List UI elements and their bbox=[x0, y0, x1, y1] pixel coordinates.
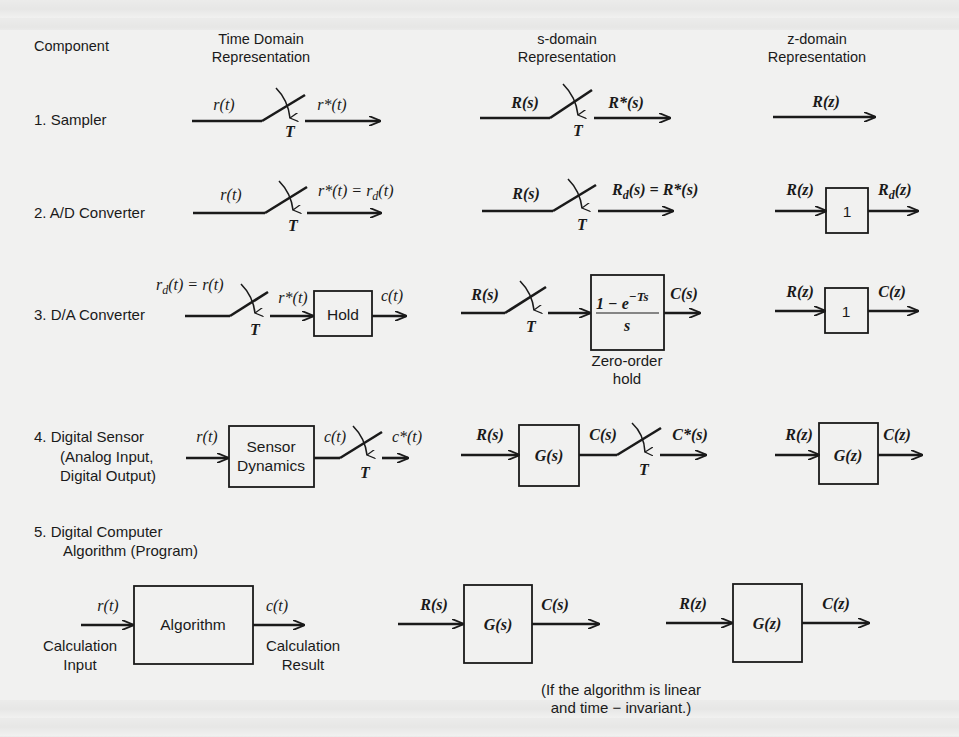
s-ad-switch: R(s) T Rd(s) = R*(s) bbox=[482, 179, 698, 233]
row-label: 4. Digital Sensor bbox=[34, 428, 144, 445]
row-label: 2. A/D Converter bbox=[34, 204, 145, 221]
header-time-domain-line2: Representation bbox=[212, 49, 310, 65]
signal-label: rd(t) = r(t) bbox=[156, 276, 223, 297]
time-ad-switch: r(t) T r*(t) = rd(t) bbox=[193, 181, 393, 234]
header-z-domain-line1: z-domain bbox=[787, 31, 847, 47]
block-label: Hold bbox=[327, 306, 359, 323]
header-s-domain-line1: s-domain bbox=[537, 31, 597, 47]
block-label: Sensor bbox=[246, 438, 295, 455]
row-label: 3. D/A Converter bbox=[34, 306, 145, 323]
signal-label: r*(t) = rd(t) bbox=[318, 182, 393, 203]
sample-period-label: T bbox=[577, 216, 588, 233]
signal-label: R*(s) bbox=[607, 94, 644, 112]
signal-label: R(s) bbox=[510, 94, 539, 112]
row-digital-computer-algorithm: 5. Digital Computer Algorithm (Program) … bbox=[34, 523, 869, 673]
signal-label: C(s) bbox=[670, 285, 698, 303]
zoh-numerator: 1 − e−Ts bbox=[596, 289, 648, 312]
signal-label: C(z) bbox=[822, 595, 850, 613]
signal-label: c(t) bbox=[324, 428, 346, 446]
sample-period-label: T bbox=[526, 318, 537, 335]
s-sensor-dynamics: R(s) G(s) C(s) T C*(s) bbox=[461, 423, 708, 486]
calculation-input-caption: Calculation bbox=[43, 637, 117, 654]
footnote-line: and time − invariant.) bbox=[551, 699, 692, 716]
signal-label: r(t) bbox=[196, 428, 217, 446]
signal-label: C*(s) bbox=[672, 426, 708, 444]
column-headers: Component Time Domain Representation s-d… bbox=[34, 31, 866, 65]
signal-label: C(s) bbox=[589, 426, 617, 444]
footnote: (If the algorithm is linear and time − i… bbox=[541, 681, 701, 716]
z-ad-unity-block: R(z) 1 Rd(z) bbox=[775, 181, 918, 233]
row-ad-converter: 2. A/D Converter r(t) T r*(t) = rd(t) R(… bbox=[34, 179, 918, 234]
s-algorithm: R(s) G(s) C(s) bbox=[398, 585, 599, 663]
row-label: Algorithm (Program) bbox=[63, 542, 198, 559]
block-label: G(z) bbox=[753, 615, 781, 633]
signal-label: r*(t) bbox=[317, 96, 346, 114]
block-label: Algorithm bbox=[160, 616, 225, 633]
row-digital-sensor: 4. Digital Sensor (Analog Input, Digital… bbox=[34, 423, 922, 487]
signal-label: Rd(s) = R*(s) bbox=[611, 181, 698, 202]
signal-label: r*(t) bbox=[278, 289, 307, 307]
signal-label: r(t) bbox=[97, 597, 118, 615]
calculation-result-caption: Result bbox=[282, 656, 325, 673]
sample-period-label: T bbox=[360, 464, 371, 481]
row-label: 1. Sampler bbox=[34, 111, 107, 128]
header-z-domain-line2: Representation bbox=[768, 49, 866, 65]
row-sampler: 1. Sampler r(t) T r*(t) R(s) T R*(s) R(z… bbox=[34, 84, 875, 140]
z-sampler-signal: R(z) bbox=[773, 93, 875, 117]
signal-label: C(z) bbox=[883, 426, 911, 444]
signal-label: r(t) bbox=[220, 186, 241, 204]
zoh-caption: Zero-order bbox=[592, 352, 663, 369]
signal-label: c(t) bbox=[381, 287, 403, 305]
header-time-domain-line1: Time Domain bbox=[218, 31, 304, 47]
signal-label: R(s) bbox=[475, 426, 504, 444]
row-label: Digital Output) bbox=[60, 467, 156, 484]
sample-period-label: T bbox=[288, 217, 299, 234]
header-component: Component bbox=[34, 38, 109, 54]
s-da-zero-order-hold: R(s) T 1 − e−Ts s C(s) Zero-order hold bbox=[461, 275, 700, 387]
signal-label: R(z) bbox=[678, 595, 707, 613]
calculation-result-caption: Calculation bbox=[266, 637, 340, 654]
signal-label: R(z) bbox=[785, 181, 814, 199]
z-algorithm: R(z) G(z) C(z) bbox=[666, 584, 869, 662]
component-representation-diagram: Component Time Domain Representation s-d… bbox=[0, 0, 959, 737]
header-s-domain-line2: Representation bbox=[518, 49, 616, 65]
footnote-line: (If the algorithm is linear bbox=[541, 681, 701, 698]
signal-label: R(s) bbox=[470, 286, 499, 304]
time-sensor-dynamics: r(t) Sensor Dynamics c(t) T c*(t) bbox=[186, 426, 422, 487]
row-da-converter: 3. D/A Converter rd(t) = r(t) T r*(t) Ho… bbox=[34, 275, 918, 387]
signal-label: R(z) bbox=[811, 93, 840, 111]
row-label: 5. Digital Computer bbox=[34, 523, 162, 540]
time-algorithm: r(t) Calculation Input Algorithm c(t) Ca… bbox=[43, 586, 340, 673]
block-label: G(z) bbox=[834, 447, 862, 465]
z-da-unity-block: R(z) 1 C(z) bbox=[775, 283, 918, 333]
signal-label: R(s) bbox=[419, 596, 448, 614]
sample-period-label: T bbox=[250, 321, 261, 338]
signal-label: R(z) bbox=[785, 283, 814, 301]
sample-period-label: T bbox=[285, 123, 296, 140]
s-sampler-switch: R(s) T R*(s) bbox=[480, 84, 670, 139]
zoh-caption: hold bbox=[613, 370, 641, 387]
block-label: 1 bbox=[842, 303, 851, 320]
signal-label: R(z) bbox=[784, 426, 813, 444]
signal-label: C(z) bbox=[878, 283, 906, 301]
row-label: (Analog Input, bbox=[60, 448, 153, 465]
signal-label: c*(t) bbox=[392, 428, 422, 446]
block-label: Dynamics bbox=[237, 457, 305, 474]
signal-label: R(s) bbox=[511, 185, 540, 203]
block-label: G(s) bbox=[535, 447, 563, 465]
time-sampler-switch: r(t) T r*(t) bbox=[192, 88, 380, 140]
signal-label: c(t) bbox=[266, 597, 288, 615]
block-label: 1 bbox=[843, 203, 852, 220]
zoh-denominator: s bbox=[623, 317, 630, 334]
signal-label: Rd(z) bbox=[877, 181, 912, 202]
signal-label: C(s) bbox=[541, 596, 569, 614]
sample-period-label: T bbox=[573, 122, 584, 139]
sample-period-label: T bbox=[639, 461, 650, 478]
block-label: G(s) bbox=[484, 616, 512, 634]
signal-label: r(t) bbox=[213, 96, 234, 114]
calculation-input-caption: Input bbox=[63, 656, 97, 673]
z-sensor-dynamics: R(z) G(z) C(z) bbox=[775, 423, 922, 484]
time-da-hold: rd(t) = r(t) T r*(t) Hold c(t) bbox=[156, 276, 406, 338]
